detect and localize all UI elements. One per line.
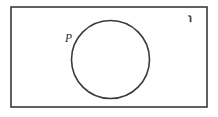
universal-set-rectangle (11, 7, 207, 107)
venn-diagram-svg: P ℩ (0, 0, 218, 117)
set-p-circle (72, 21, 150, 99)
venn-diagram-canvas: P ℩ (0, 0, 218, 117)
universal-set-label: ℩ (188, 11, 192, 25)
set-p-label: P (64, 32, 72, 44)
